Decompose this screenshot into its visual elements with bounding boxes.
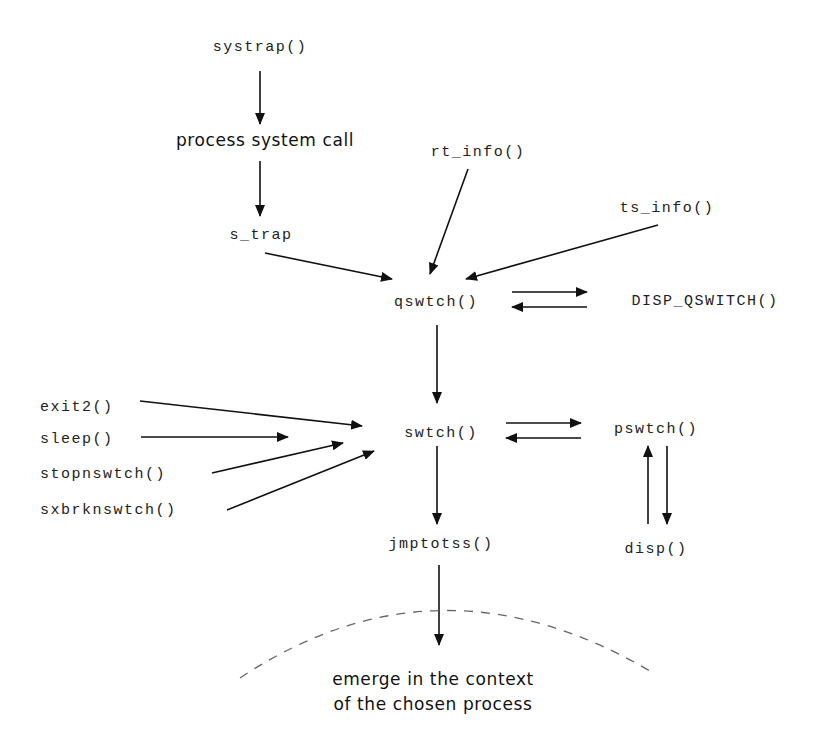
edge-exit2-swtch [140,401,362,426]
edge-tsinfo-qswtch [466,225,658,279]
context-boundary-arc [240,610,655,678]
node-ts-info: ts_info() [620,200,715,217]
edge-strap-qswtch [265,253,392,279]
node-jmptotss: jmptotss() [388,536,493,553]
node-disp: disp() [624,541,687,558]
node-emerge-line2: of the chosen process [333,694,532,714]
node-swtch: swtch() [404,425,478,442]
node-sleep: sleep() [40,431,114,448]
diagram-svg: systrap() process system call s_trap rt_… [0,0,838,747]
scheduler-flow-diagram: systrap() process system call s_trap rt_… [0,0,838,747]
node-qswtch: qswtch() [394,294,478,311]
node-exit2: exit2() [40,399,114,416]
node-rt-info: rt_info() [431,144,526,161]
node-process-system-call: process system call [176,130,354,150]
node-stopnswtch: stopnswtch() [40,466,166,483]
node-emerge-line1: emerge in the context [332,669,534,689]
node-pswtch: pswtch() [614,421,698,438]
node-s-trap: s_trap [229,227,292,244]
node-disp-qswitch: DISP_QSWITCH() [631,293,778,310]
node-sxbrknswtch: sxbrknswtch() [40,502,177,519]
edge-stopnswtch-swtch [212,443,343,473]
edge-rtinfo-qswtch [430,169,468,274]
edge-sxbrknswtch-swtch [227,451,374,510]
node-systrap: systrap() [213,39,308,56]
